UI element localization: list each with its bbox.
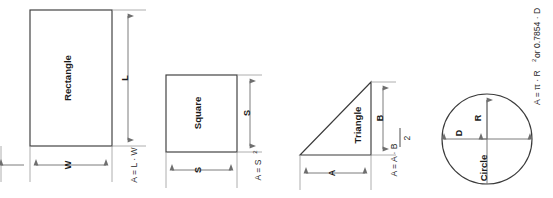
triangle-formula-numerator: A = A · B <box>389 143 399 176</box>
circle-formula-part2: or 0.7854 · D <box>532 8 542 58</box>
diagram-canvas: Rectangle L W A = L · W Square S S A = S… <box>0 0 553 198</box>
geometry-formula-diagram: Rectangle L W A = L · W Square S S A = S… <box>0 0 553 198</box>
rectangle-label: Rectangle <box>62 55 73 101</box>
figure-triangle: Triangle B A A = A · B 2 <box>300 82 412 190</box>
circle-dim-label-R: R <box>473 114 483 121</box>
square-formula-exponent: 2 <box>252 150 258 154</box>
figure-circle: Circle R D A = π · R 2 or 0.7854 · D 2 <box>442 0 542 184</box>
circle-formula-group: A = π · R 2 or 0.7854 · D 2 <box>531 0 542 105</box>
circle-label: Circle <box>478 155 489 182</box>
rectangle-dim-label-L: L <box>120 75 130 81</box>
triangle-label: Triangle <box>352 107 363 144</box>
rectangle-dim-label-W: W <box>63 160 73 169</box>
circle-dim-label-D: D <box>454 129 464 136</box>
rectangle-formula: A = L · W <box>129 146 139 182</box>
circle-formula-part1: A = π · R <box>532 70 542 105</box>
triangle-formula-denominator: 2 <box>402 135 412 140</box>
figure-square: Square S S A = S 2 <box>166 75 263 188</box>
square-formula: A = S <box>253 159 263 180</box>
figure-rectangle: Rectangle L W A = L · W <box>1 10 146 183</box>
square-label: Square <box>192 97 203 130</box>
square-dim-label-S-vertical: S <box>242 110 252 116</box>
triangle-dim-label-B: B <box>375 114 385 121</box>
triangle-dim-label-A: A <box>327 169 337 176</box>
square-dim-label-S-horizontal: S <box>193 167 203 173</box>
square-formula-group: A = S 2 <box>252 150 263 181</box>
triangle-formula-group: A = A · B 2 <box>389 128 412 177</box>
